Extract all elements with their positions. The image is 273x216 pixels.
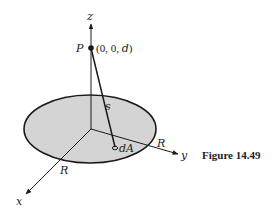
disk — [24, 95, 156, 163]
y-label: y — [180, 149, 188, 162]
radius-y-label: R — [156, 137, 165, 150]
figure-caption: Figure 14.49 — [202, 149, 261, 161]
z-label: z — [86, 10, 93, 23]
point-coords-label: (0, 0, d) — [96, 42, 133, 55]
point-p — [88, 45, 94, 51]
da-label: dA — [119, 142, 134, 155]
figure-diagram: z P (0, 0, d) s dA R y R x Figure 14.49 — [0, 0, 273, 216]
radius-x-label: R — [59, 164, 68, 177]
s-label: s — [105, 100, 111, 113]
p-label: P — [75, 42, 84, 55]
x-label: x — [16, 195, 23, 208]
